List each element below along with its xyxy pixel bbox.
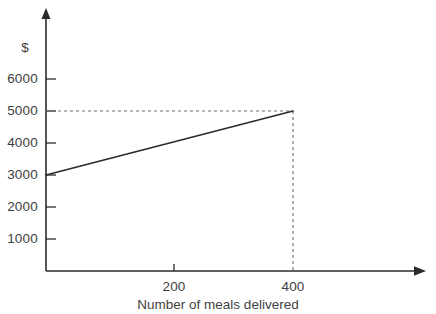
y-tick-label-5000: 5000 <box>0 104 38 118</box>
y-tick-label-2000: 2000 <box>0 200 38 214</box>
y-axis-title: $ <box>21 41 29 55</box>
y-tick-label-3000: 3000 <box>0 168 38 182</box>
plot-area <box>0 0 436 314</box>
y-tick-label-6000: 6000 <box>0 72 38 86</box>
line-chart: $ 6000 5000 4000 3000 2000 1000 200 400 … <box>0 0 436 314</box>
x-axis-title: Number of meals delivered <box>137 298 298 312</box>
series-line-total-cost <box>46 111 293 175</box>
y-tick-label-4000: 4000 <box>0 136 38 150</box>
y-axis-arrow-icon <box>42 8 51 19</box>
y-tick-label-1000: 1000 <box>0 232 38 246</box>
x-tick-label-400: 400 <box>281 280 304 294</box>
x-axis-arrow-icon <box>414 266 426 276</box>
y-axis-ticks <box>46 79 56 239</box>
x-tick-label-200: 200 <box>162 280 185 294</box>
